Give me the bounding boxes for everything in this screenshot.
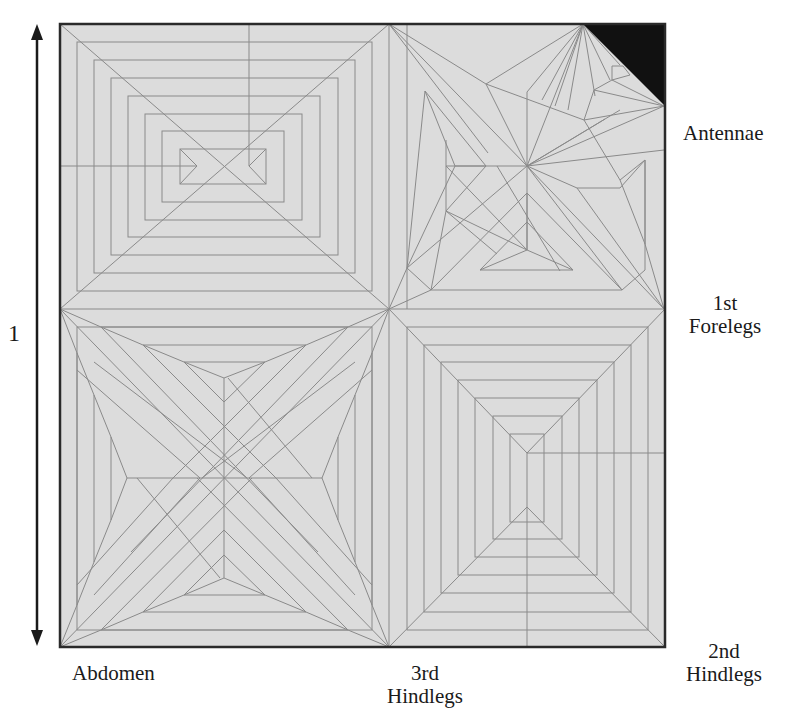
dimension-arrow: [31, 24, 43, 646]
label-antennae: Antennae: [683, 122, 763, 145]
label-2nd-hindlegs-line1: 2nd: [680, 640, 768, 663]
label-2nd-hindlegs: 2nd Hindlegs: [680, 640, 768, 686]
crease-pattern-diagram: [0, 0, 798, 722]
label-3rd-hindlegs-line2: Hindlegs: [381, 685, 469, 708]
label-3rd-hindlegs: 3rd Hindlegs: [381, 662, 469, 708]
label-1st-forelegs: 1st Forelegs: [682, 292, 768, 338]
label-1st-forelegs-line1: 1st: [682, 292, 768, 315]
label-3rd-hindlegs-line1: 3rd: [381, 662, 469, 685]
label-1st-forelegs-line2: Forelegs: [682, 315, 768, 338]
dimension-label: 1: [8, 322, 20, 345]
label-2nd-hindlegs-line2: Hindlegs: [680, 663, 768, 686]
label-abdomen: Abdomen: [72, 662, 155, 685]
